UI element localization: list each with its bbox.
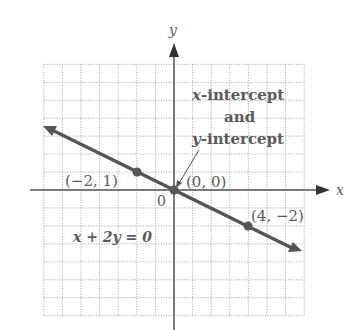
annotation-line-1: x-intercept (191, 86, 284, 104)
annotation-line-3: y-intercept (191, 130, 284, 148)
graph: x y 0 (−2, 1) (0, 0) (4, −2) x + 2y = 0 … (0, 0, 360, 330)
x-axis-arrow-icon (316, 185, 330, 195)
x-axis-label: x (336, 182, 344, 198)
y-axis-label: y (168, 22, 178, 38)
origin-label: 0 (157, 193, 166, 209)
annotation-line-2: and (224, 108, 256, 126)
y-axis-arrow-icon (169, 43, 179, 57)
annotation-arrow-icon (176, 180, 182, 188)
equation-label: x + 2y = 0 (72, 229, 152, 245)
point-label-neg2-1: (−2, 1) (65, 172, 118, 190)
point-label-origin: (0, 0) (186, 173, 226, 191)
point-label-4-neg2: (4, −2) (251, 207, 304, 225)
point-neg2-1 (133, 168, 142, 177)
